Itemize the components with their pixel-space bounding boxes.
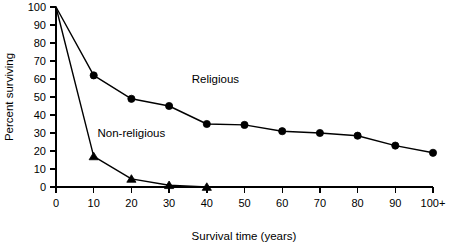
series-annotation: Non-religious	[97, 127, 165, 139]
y-tick-label: 50	[34, 91, 46, 103]
x-tick-label: 50	[238, 197, 250, 209]
survival-chart: 0102030405060708090100 01020304050607080…	[0, 0, 449, 245]
y-axis-ticks	[50, 7, 56, 187]
y-tick-label: 40	[34, 109, 46, 121]
x-tick-label: 40	[201, 197, 213, 209]
data-point	[89, 152, 98, 160]
chart-plot-area: 0102030405060708090100 01020304050607080…	[0, 0, 449, 245]
data-point	[279, 128, 286, 135]
x-tick-label: 100+	[421, 197, 446, 209]
y-axis-tick-labels: 0102030405060708090100	[28, 1, 46, 193]
data-point	[166, 102, 173, 109]
data-point	[392, 142, 399, 149]
x-axis-tick-labels: 0102030405060708090100+	[53, 197, 445, 209]
data-point	[241, 121, 248, 128]
y-axis-title: Percent surviving	[3, 53, 15, 141]
data-point	[354, 132, 361, 139]
data-point	[90, 72, 97, 79]
y-tick-label: 60	[34, 73, 46, 85]
x-tick-label: 80	[351, 197, 363, 209]
data-point	[128, 95, 135, 102]
x-tick-label: 30	[163, 197, 175, 209]
y-tick-label: 100	[28, 1, 46, 13]
x-tick-label: 0	[53, 197, 59, 209]
x-tick-label: 20	[125, 197, 137, 209]
data-series-group	[56, 7, 433, 187]
series-annotation: Religious	[192, 73, 240, 85]
x-tick-label: 70	[314, 197, 326, 209]
data-point	[429, 149, 436, 156]
data-point	[127, 175, 136, 183]
data-point	[316, 129, 323, 136]
x-tick-label: 10	[88, 197, 100, 209]
x-tick-label: 90	[389, 197, 401, 209]
y-tick-label: 20	[34, 145, 46, 157]
data-point	[203, 120, 210, 127]
y-tick-label: 0	[40, 181, 46, 193]
x-axis-title: Survival time (years)	[192, 230, 297, 242]
x-tick-label: 60	[276, 197, 288, 209]
y-tick-label: 70	[34, 55, 46, 67]
y-tick-label: 80	[34, 37, 46, 49]
y-tick-label: 10	[34, 163, 46, 175]
y-tick-label: 30	[34, 127, 46, 139]
x-axis-ticks	[56, 187, 433, 193]
y-tick-label: 90	[34, 19, 46, 31]
